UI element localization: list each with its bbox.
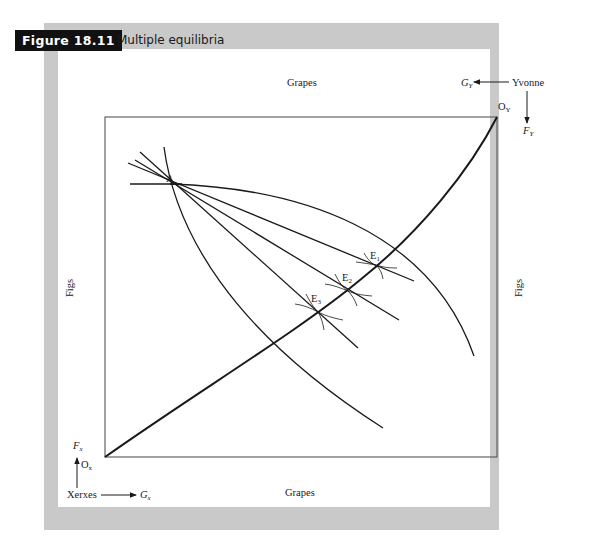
right-axis-label: Figs: [513, 279, 524, 297]
offer-curve-yvonne: [170, 184, 474, 356]
xerxes-figs-axis-label: Fx: [72, 440, 83, 453]
xerxes-axes-legend: Xerxes Fx Gx: [67, 440, 152, 502]
xerxes-grapes-axis-label: Gx: [140, 489, 152, 502]
yvonne-figs-axis-label: FY: [522, 125, 534, 138]
bottom-axis-label: Grapes: [285, 487, 315, 498]
origin-xerxes-label: Ox: [81, 459, 93, 472]
equilibrium-e2-label: E2: [342, 272, 352, 285]
edgeworth-box: [105, 117, 497, 457]
equilibrium-e3-label: E3: [311, 293, 321, 306]
contract-curve: [105, 117, 497, 457]
edgeworth-box-diagram: A E1 E2 E3 Grapes Grapes Figs Figs Ox OY…: [0, 0, 590, 549]
xerxes-label: Xerxes: [67, 489, 97, 500]
left-axis-label: Figs: [64, 279, 75, 297]
yvonne-label: Yvonne: [512, 77, 545, 88]
budget-line-e2: [135, 160, 399, 320]
top-axis-label: Grapes: [287, 77, 317, 88]
origin-yvonne-label: OY: [498, 101, 511, 114]
equilibrium-e1-label: E1: [370, 250, 380, 263]
yvonne-grapes-axis-label: GY: [461, 77, 474, 90]
endowment-point-label: A: [166, 173, 174, 184]
